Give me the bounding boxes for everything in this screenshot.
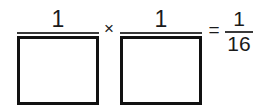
fraction-factor-2: 1 [120, 8, 202, 105]
multiplication-sign: × [102, 20, 116, 37]
fraction-factor-1-numerator: 1 [17, 8, 99, 30]
answer-box-denominator-2[interactable] [120, 36, 202, 105]
fraction-factor-2-numerator: 1 [120, 8, 202, 30]
math-problem-canvas: 1 × 1 = 1 16 [0, 0, 262, 111]
fraction-factor-2-bar [120, 32, 202, 34]
result-fraction-numerator: 1 [233, 9, 245, 29]
answer-box-denominator-1[interactable] [17, 36, 99, 105]
fraction-factor-1-bar [17, 32, 99, 34]
result-fraction: 1 16 [225, 9, 253, 54]
result-fraction-denominator: 16 [227, 34, 250, 54]
equals-sign: = [206, 21, 222, 38]
fraction-factor-1: 1 [17, 8, 99, 105]
